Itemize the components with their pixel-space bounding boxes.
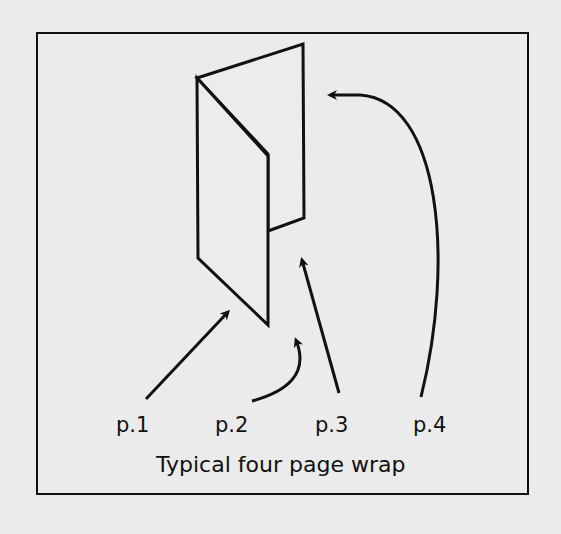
label-p1: p.1 (116, 413, 149, 437)
label-p2: p.2 (215, 413, 248, 437)
label-p3: p.3 (315, 413, 348, 437)
label-p4: p.4 (413, 413, 446, 437)
arrow-p1 (146, 312, 228, 399)
four-page-wrap-diagram: p.1 p.2 p.3 p.4 Typical four page wrap (0, 0, 561, 534)
arrow-p2 (252, 340, 300, 401)
arrow-p3 (302, 260, 339, 393)
arrow-p4 (330, 95, 438, 397)
caption: Typical four page wrap (155, 452, 405, 477)
